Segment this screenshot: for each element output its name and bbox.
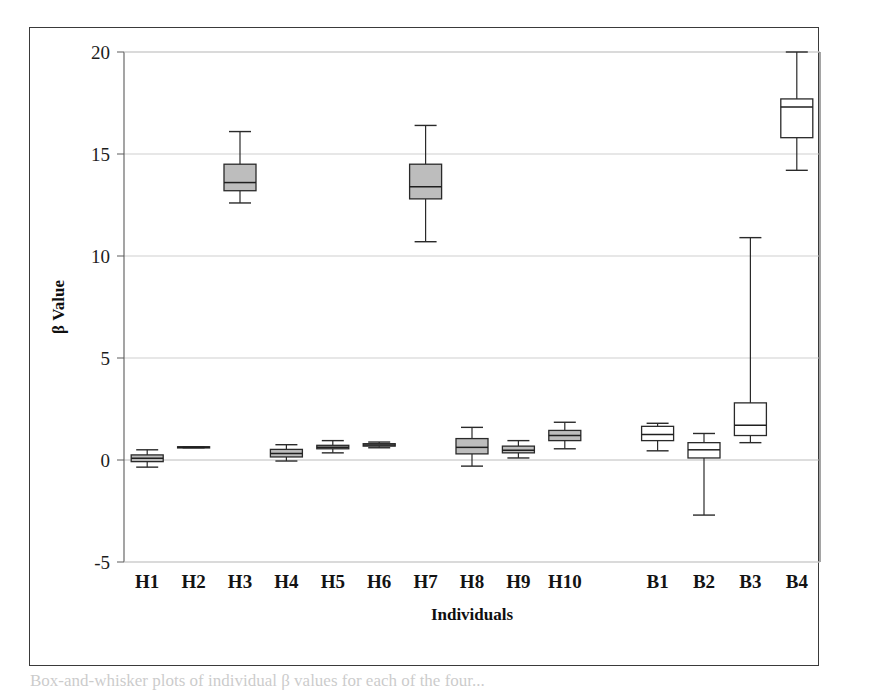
- boxplot-H7: [410, 125, 442, 241]
- boxplot-H3: [224, 132, 256, 203]
- ytick-label-10: 10: [91, 246, 110, 267]
- caption-text: Box-and-whisker plots of individual β va…: [30, 672, 850, 690]
- boxplot-H2: [178, 447, 210, 448]
- boxplot-H1: [131, 450, 163, 467]
- plot-stage: -505101520β ValueH1H2H3H4H5H6H7H8H9H10B1…: [0, 0, 878, 690]
- xtick-label-B4: B4: [786, 571, 809, 592]
- box-H8: [456, 439, 488, 454]
- xtick-label-H4: H4: [274, 571, 299, 592]
- boxplot-B3: [734, 238, 766, 443]
- xtick-label-H3: H3: [228, 571, 252, 592]
- xtick-label-H1: H1: [135, 571, 159, 592]
- xtick-label-H10: H10: [548, 571, 582, 592]
- figure-container: -505101520β ValueH1H2H3H4H5H6H7H8H9H10B1…: [0, 0, 878, 690]
- ytick-label-15: 15: [91, 144, 110, 165]
- box-B3: [734, 403, 766, 436]
- boxplot-chart: -505101520β ValueH1H2H3H4H5H6H7H8H9H10B1…: [0, 0, 878, 690]
- xtick-label-H5: H5: [321, 571, 345, 592]
- boxplot-B1: [642, 423, 674, 451]
- box-H3: [224, 164, 256, 191]
- y-axis-title: β Value: [49, 279, 68, 334]
- boxplot-H10: [549, 422, 581, 449]
- xtick-label-H9: H9: [506, 571, 530, 592]
- x-axis-title: Individuals: [431, 605, 514, 624]
- boxplot-H4: [270, 445, 302, 461]
- xtick-label-B2: B2: [693, 571, 715, 592]
- boxplot-B4: [781, 52, 813, 170]
- box-B4: [781, 99, 813, 138]
- figure-caption-clipped: Box-and-whisker plots of individual β va…: [30, 672, 850, 690]
- xtick-label-H8: H8: [460, 571, 484, 592]
- box-B1: [642, 426, 674, 440]
- box-H7: [410, 164, 442, 199]
- boxplot-B2: [688, 433, 720, 515]
- boxplot-H5: [317, 441, 349, 453]
- ytick-label-0: 0: [101, 450, 111, 471]
- ytick-label--5: -5: [94, 552, 110, 573]
- xtick-label-H7: H7: [413, 571, 438, 592]
- xtick-label-H6: H6: [367, 571, 391, 592]
- xtick-label-B3: B3: [739, 571, 761, 592]
- xtick-label-H2: H2: [181, 571, 205, 592]
- ytick-label-5: 5: [101, 348, 111, 369]
- boxplot-H6: [363, 442, 395, 448]
- boxplot-H9: [502, 441, 534, 458]
- xtick-label-B1: B1: [647, 571, 669, 592]
- ytick-label-20: 20: [91, 42, 110, 63]
